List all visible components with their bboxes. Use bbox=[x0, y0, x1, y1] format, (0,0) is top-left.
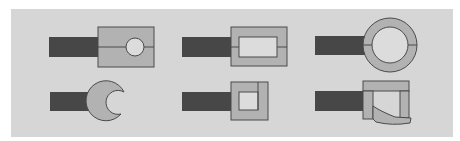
item-split-block-round-hole bbox=[49, 27, 154, 67]
handle-bar bbox=[49, 37, 99, 57]
handle-bar bbox=[182, 92, 232, 111]
right-post bbox=[400, 91, 409, 118]
ring-inner bbox=[372, 27, 408, 63]
handle-bar bbox=[182, 37, 232, 57]
diagram-canvas bbox=[0, 0, 460, 141]
top-bar bbox=[363, 81, 409, 91]
left-post bbox=[363, 91, 373, 119]
item-open-crescent bbox=[50, 81, 124, 121]
item-split-frame-rect-window bbox=[182, 27, 287, 66]
item-frame-curved-bottom bbox=[315, 81, 411, 124]
crescent-jaw bbox=[86, 81, 124, 121]
handle-bar bbox=[315, 91, 365, 111]
square-window bbox=[239, 92, 258, 110]
handle-bar bbox=[315, 36, 365, 55]
item-square-frame-side-piece bbox=[182, 82, 268, 120]
item-split-ring bbox=[315, 18, 417, 72]
round-hole bbox=[126, 38, 144, 56]
rect-window bbox=[239, 37, 277, 57]
